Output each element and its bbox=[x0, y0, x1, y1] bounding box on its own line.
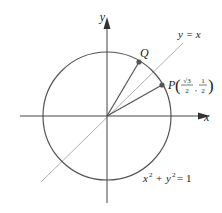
radius-oq bbox=[107, 62, 139, 116]
eq-y-exp: 2 bbox=[172, 171, 176, 179]
point-p-label-group: P ( √3 2 , 1 2 ) bbox=[167, 76, 214, 95]
point-q-label: Q bbox=[140, 46, 149, 60]
eq-x: x bbox=[142, 172, 148, 184]
y-axis-label: y bbox=[99, 10, 106, 24]
eq-equals-one: = 1 bbox=[177, 172, 191, 184]
comma: , bbox=[195, 84, 197, 93]
unit-circle-diagram: y x y = x Q P ( √3 2 , 1 2 ) x 2 + y 2 =… bbox=[0, 0, 222, 213]
open-paren: ( bbox=[175, 76, 181, 95]
circle-equation: x 2 + y 2 = 1 bbox=[142, 171, 191, 184]
x-axis-label: x bbox=[203, 110, 210, 124]
point-q bbox=[136, 59, 141, 64]
point-p bbox=[159, 82, 164, 87]
p-x-denominator: 2 bbox=[185, 87, 189, 95]
eq-x-exp: 2 bbox=[149, 171, 153, 179]
p-x-numerator: √3 bbox=[183, 77, 191, 85]
p-y-numerator: 1 bbox=[201, 77, 205, 85]
eq-plus: + bbox=[156, 172, 162, 184]
line-label: y = x bbox=[177, 28, 201, 40]
radius-op bbox=[107, 85, 162, 116]
eq-y: y bbox=[165, 172, 171, 184]
close-paren: ) bbox=[208, 76, 214, 95]
p-y-denominator: 2 bbox=[201, 87, 205, 95]
